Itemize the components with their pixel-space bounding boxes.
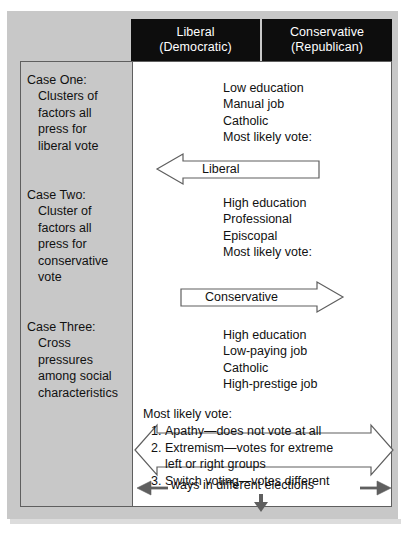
outcome-item-1-number: 1. [151, 423, 165, 440]
arrow-liberal: Liberal [157, 153, 319, 185]
outcome-item-2-number: 2. [151, 440, 165, 457]
case-three-desc-line-3: among social [38, 368, 131, 384]
column-header-liberal: Liberal (Democratic) [131, 19, 260, 61]
case-one-label: Case One: Clusters of factors all press … [27, 72, 131, 154]
case-one-attributes: Low education Manual job Catholic Most l… [223, 80, 312, 146]
case-two-desc-line-4: conservative [38, 253, 131, 269]
arrow-conservative-label: Conservative [205, 290, 278, 304]
outcome-item-2: 2.Extremism—votes for extreme left or ri… [151, 440, 393, 473]
column-header-conservative-line2: (Republican) [262, 40, 392, 55]
case-one-attribute-3: Catholic [223, 113, 312, 129]
case-three-attributes: High education Low-paying job Catholic H… [223, 327, 318, 393]
case-one-attribute-2: Manual job [223, 96, 312, 112]
case-two-desc-line-1: Cluster of [38, 203, 131, 219]
case-one-desc-line-1: Clusters of [38, 88, 131, 104]
case-three-attribute-1: High education [223, 327, 318, 343]
column-header-liberal-line2: (Democratic) [131, 40, 260, 55]
case-three-attribute-3: Catholic [223, 360, 318, 376]
case-two-desc-line-2: factors all [38, 220, 131, 236]
case-one-desc-line-2: factors all [38, 105, 131, 121]
arrow-conservative: Conservative [181, 281, 343, 313]
case-two-attribute-2: Professional [223, 211, 312, 227]
case-two-attribute-1: High education [223, 195, 312, 211]
case-one-attribute-4: Most likely vote: [223, 129, 312, 145]
figure-root: Liberal (Democratic) Conservative (Repub… [0, 0, 408, 539]
case-three-attribute-4: High-prestige job [223, 376, 318, 392]
case-two-desc-line-5: vote [38, 269, 131, 285]
outcome-item-2-line-2: left or right groups [165, 456, 393, 473]
case-three-desc-line-4: characteristics [38, 385, 131, 401]
outcome-item-3-line-2: ways in different elections [171, 478, 314, 492]
case-three-attribute-2: Low-paying job [223, 343, 318, 359]
case-two-attribute-4: Most likely vote: [223, 244, 312, 260]
column-header-conservative: Conservative (Republican) [262, 19, 392, 61]
case-two-title: Case Two: [27, 187, 131, 203]
outcome-item-1-line-1: Apathy—does not vote at all [165, 424, 321, 438]
case-two-attribute-3: Episcopal [223, 228, 312, 244]
case-two-attributes: High education Professional Episcopal Mo… [223, 195, 312, 261]
arrow-down-icon [251, 494, 271, 514]
case-two-desc-line-3: press for [38, 236, 131, 252]
chart-body: Case One: Clusters of factors all press … [20, 61, 392, 507]
case-three-title: Case Three: [27, 319, 131, 335]
case-three-desc-line-2: pressures [38, 352, 131, 368]
case-two-label: Case Two: Cluster of factors all press f… [27, 187, 131, 285]
column-header-conservative-line1: Conservative [290, 25, 364, 39]
case-one-desc-line-3: press for [38, 121, 131, 137]
column-header-liberal-line1: Liberal [176, 25, 214, 39]
figure-panel-shadow [10, 519, 401, 524]
arrow-liberal-label: Liberal [202, 162, 240, 176]
outcome-column: Low education Manual job Catholic Most l… [132, 62, 391, 506]
case-one-attribute-1: Low education [223, 80, 312, 96]
case-one-desc-line-4: liberal vote [38, 138, 131, 154]
outcome-item-1: 1.Apathy—does not vote at all [151, 423, 393, 440]
case-three-desc-line-1: Cross [38, 335, 131, 351]
case-one-title: Case One: [27, 72, 131, 88]
case-three-label: Case Three: Cross pressures among social… [27, 319, 131, 401]
outcome-item-2-line-1: Extremism—votes for extreme [165, 441, 333, 455]
